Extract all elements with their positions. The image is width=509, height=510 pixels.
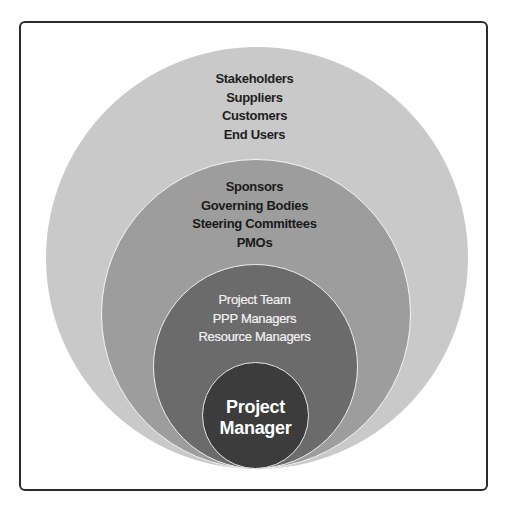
label-suppliers: Suppliers bbox=[0, 89, 509, 108]
label-steering-committees: Steering Committees bbox=[0, 215, 509, 234]
label-customers: Customers bbox=[0, 107, 509, 126]
outer-ring-labels: Stakeholders Suppliers Customers End Use… bbox=[0, 70, 509, 145]
center-label: Project Manager bbox=[202, 397, 309, 439]
label-project: Project bbox=[202, 397, 309, 418]
label-manager: Manager bbox=[202, 418, 309, 439]
label-governing-bodies: Governing Bodies bbox=[0, 197, 509, 216]
label-stakeholders: Stakeholders bbox=[0, 70, 509, 89]
third-ring-labels: Project Team PPP Managers Resource Manag… bbox=[0, 291, 509, 347]
second-ring-labels: Sponsors Governing Bodies Steering Commi… bbox=[0, 178, 509, 253]
label-end-users: End Users bbox=[0, 126, 509, 145]
label-sponsors: Sponsors bbox=[0, 178, 509, 197]
label-ppp-managers: PPP Managers bbox=[0, 310, 509, 329]
label-project-team: Project Team bbox=[0, 291, 509, 310]
label-resource-managers: Resource Managers bbox=[0, 328, 509, 347]
label-pmos: PMOs bbox=[0, 234, 509, 253]
